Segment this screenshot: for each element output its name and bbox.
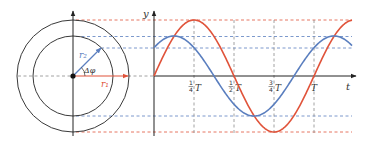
phasor-center-dot [70, 73, 75, 78]
tick-half: 1 2 T [229, 79, 243, 93]
svg-text:T: T [311, 83, 318, 93]
y-axis-label: y [142, 8, 149, 19]
svg-text:3: 3 [269, 79, 273, 86]
angle-label: Δφ [83, 66, 96, 75]
t-axis-label: t [346, 81, 351, 92]
svg-text:2: 2 [229, 86, 233, 93]
diagram-canvas: r₂ Δφ r₁ y t 1 4 T 1 2 T 3 4 T T [0, 0, 370, 143]
r1-label: r₁ [101, 79, 109, 89]
svg-text:T: T [195, 83, 202, 93]
tick-three-quarter: 3 4 T [269, 79, 283, 93]
svg-text:T: T [275, 83, 282, 93]
tick-quarter: 1 4 T [189, 79, 203, 93]
svg-text:1: 1 [189, 79, 193, 86]
r2-label: r₂ [79, 50, 87, 60]
svg-text:4: 4 [189, 86, 193, 93]
phasor-diagram: r₂ Δφ r₁ y t 1 4 T 1 2 T 3 4 T T [0, 0, 370, 143]
tick-period: T [311, 83, 318, 93]
svg-text:4: 4 [269, 86, 273, 93]
svg-text:1: 1 [229, 79, 233, 86]
